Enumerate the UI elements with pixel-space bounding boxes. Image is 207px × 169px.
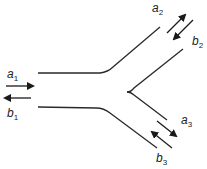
arrow-a3-outgoing bbox=[157, 121, 176, 136]
inner-wall-upper bbox=[127, 49, 183, 92]
inner-wall-lower bbox=[127, 92, 167, 120]
lower-outer-wall bbox=[38, 107, 157, 148]
label-a1: a1 bbox=[7, 67, 19, 83]
label-a3: a3 bbox=[181, 113, 193, 129]
arrow-b3-incoming bbox=[152, 132, 172, 148]
upper-outer-wall bbox=[38, 27, 160, 73]
label-a2: a2 bbox=[152, 1, 164, 17]
label-b2: b2 bbox=[192, 34, 204, 50]
label-b3: b3 bbox=[156, 151, 168, 167]
y-junction-diagram: a1 b1 a2 b2 a3 b3 bbox=[0, 0, 207, 169]
label-b1: b1 bbox=[7, 106, 19, 122]
